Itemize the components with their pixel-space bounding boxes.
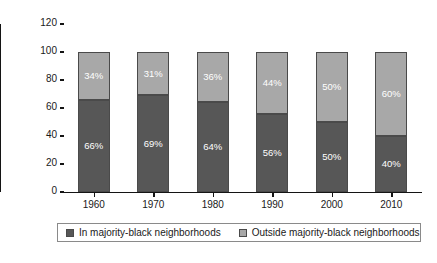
- bar-value-label: 56%: [263, 148, 282, 158]
- bar-value-label: 66%: [84, 141, 103, 151]
- x-tick-mark: [94, 193, 95, 197]
- plot-area: 66%34%69%31%64%36%56%44%50%50%40%60%: [64, 24, 421, 192]
- legend-item[interactable]: In majority-black neighborhoods: [66, 228, 221, 238]
- bar-value-label: 60%: [382, 89, 401, 99]
- x-tick-mark: [272, 193, 273, 197]
- legend-swatch-icon: [66, 229, 74, 237]
- y-tick-label: 20: [46, 157, 57, 168]
- bar-segment-outside-majority-black[interactable]: 60%: [375, 52, 407, 136]
- bar-value-label: 40%: [382, 159, 401, 169]
- bar-segment-in-majority-black[interactable]: 64%: [197, 102, 229, 192]
- stacked-bar-chart: Percentage 020406080100120 1960197019801…: [0, 0, 437, 263]
- bar-segment-outside-majority-black[interactable]: 34%: [78, 52, 110, 100]
- y-tick-label: 60: [46, 101, 57, 112]
- x-tick-label: 1980: [202, 199, 224, 210]
- bar-value-label: 50%: [322, 82, 341, 92]
- y-tick-label: 120: [40, 17, 57, 28]
- x-tick-label: 1970: [142, 199, 164, 210]
- legend-item[interactable]: Outside majority-black neighborhoods: [239, 228, 420, 238]
- y-tick-label: 0: [51, 185, 57, 196]
- bar-value-label: 36%: [203, 72, 222, 82]
- bar-segment-outside-majority-black[interactable]: 50%: [316, 52, 348, 122]
- bar-value-label: 34%: [84, 71, 103, 81]
- legend-item-label: In majority-black neighborhoods: [79, 228, 221, 238]
- bar-segment-in-majority-black[interactable]: 56%: [256, 114, 288, 192]
- x-tick-label: 1960: [83, 199, 105, 210]
- bar-value-label: 31%: [144, 69, 163, 79]
- x-tick-label: 2000: [321, 199, 343, 210]
- chart-legend: In majority-black neighborhoodsOutside m…: [57, 223, 421, 242]
- bar-value-label: 44%: [263, 78, 282, 88]
- y-tick-label: 100: [40, 45, 57, 56]
- bar-group[interactable]: 64%36%: [197, 24, 229, 192]
- bar-segment-in-majority-black[interactable]: 66%: [78, 100, 110, 192]
- bar-segment-outside-majority-black[interactable]: 44%: [256, 52, 288, 114]
- y-tick-label: 80: [46, 73, 57, 84]
- bar-group[interactable]: 69%31%: [137, 24, 169, 192]
- bar-segment-outside-majority-black[interactable]: 31%: [137, 52, 169, 95]
- x-tick-mark: [153, 193, 154, 197]
- x-tick-label: 2010: [380, 199, 402, 210]
- x-tick-mark: [332, 193, 333, 197]
- bar-value-label: 64%: [203, 142, 222, 152]
- legend-item-label: Outside majority-black neighborhoods: [252, 228, 420, 238]
- bar-segment-outside-majority-black[interactable]: 36%: [197, 52, 229, 102]
- bar-group[interactable]: 50%50%: [316, 24, 348, 192]
- bar-segment-in-majority-black[interactable]: 40%: [375, 136, 407, 192]
- x-axis-line: [64, 192, 422, 193]
- bar-segment-in-majority-black[interactable]: 50%: [316, 122, 348, 192]
- x-tick-mark: [213, 193, 214, 197]
- bar-group[interactable]: 40%60%: [375, 24, 407, 192]
- bar-value-label: 69%: [144, 139, 163, 149]
- legend-swatch-icon: [239, 229, 247, 237]
- x-tick-label: 1990: [261, 199, 283, 210]
- bar-group[interactable]: 66%34%: [78, 24, 110, 192]
- x-tick-mark: [391, 193, 392, 197]
- y-axis-line: [0, 24, 1, 192]
- bar-value-label: 50%: [322, 152, 341, 162]
- bar-group[interactable]: 56%44%: [256, 24, 288, 192]
- bar-segment-in-majority-black[interactable]: 69%: [137, 95, 169, 192]
- y-tick-label: 40: [46, 129, 57, 140]
